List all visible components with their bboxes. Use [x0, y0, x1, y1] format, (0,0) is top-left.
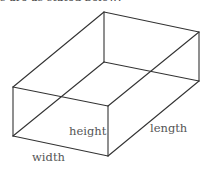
edge-top-left — [13, 12, 104, 87]
length-label: length — [150, 121, 188, 135]
edge-front-top — [13, 87, 108, 106]
rectangular-prism-diagram: height length width — [0, 0, 209, 171]
edge-bottom-right — [108, 81, 199, 156]
width-label: width — [32, 150, 66, 164]
edge-back-top — [104, 12, 199, 32]
height-label: height — [69, 124, 107, 138]
edge-back-bottom — [104, 62, 199, 81]
edge-top-right — [108, 32, 199, 106]
